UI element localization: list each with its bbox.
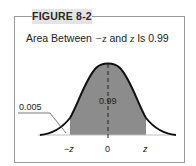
tick-zero: 0	[105, 144, 110, 154]
center-area-label: 0.99	[99, 96, 117, 106]
tick-neg-z: −z	[64, 144, 74, 154]
tick-z: z	[142, 144, 148, 154]
tail-area-label: 0.005	[19, 102, 42, 112]
normal-curve-chart: 0.99 0.005 −z 0 z	[0, 0, 196, 166]
tail-leader-line	[18, 113, 66, 133]
